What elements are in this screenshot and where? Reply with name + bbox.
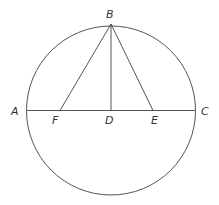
label-e: E [151,114,158,127]
label-a: A [10,105,19,118]
segment-bf [60,24,111,111]
label-d: D [105,114,113,127]
label-f: F [52,114,59,127]
geometry-diagram: B A C F D E [0,0,219,205]
label-c: C [201,105,209,118]
label-b: B [106,8,114,21]
segment-be [111,24,153,111]
